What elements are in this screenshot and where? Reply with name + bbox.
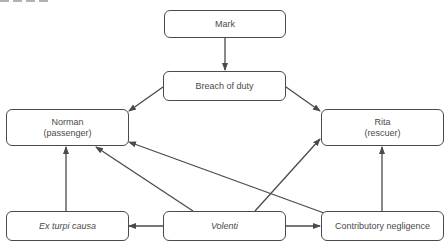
node-volenti: Volenti <box>163 211 286 241</box>
node-mark-label: Mark <box>215 19 235 30</box>
edge-contributory-norman <box>129 142 324 213</box>
node-rita-role: (rescuer) <box>364 128 400 139</box>
node-mark: Mark <box>164 10 286 38</box>
node-contributory-negligence: Contributory negligence <box>321 211 444 241</box>
node-norman-name: Norman <box>51 117 83 128</box>
node-ex-turpi-causa: Ex turpi causa <box>6 211 129 241</box>
node-contributory-label: Contributory negligence <box>335 221 430 232</box>
node-rita-name: Rita <box>374 117 390 128</box>
edge-breach-norman <box>129 87 163 111</box>
node-norman-role: (passenger) <box>43 128 91 139</box>
node-ex-turpi-label: Ex turpi causa <box>39 221 96 232</box>
edge-volenti-norman <box>96 147 193 211</box>
node-breach-label: Breach of duty <box>195 81 253 92</box>
node-norman: Norman (passenger) <box>6 109 129 146</box>
node-breach-of-duty: Breach of duty <box>163 71 286 101</box>
node-volenti-label: Volenti <box>211 221 238 232</box>
edge-breach-rita <box>286 87 320 111</box>
node-rita: Rita (rescuer) <box>321 109 444 146</box>
